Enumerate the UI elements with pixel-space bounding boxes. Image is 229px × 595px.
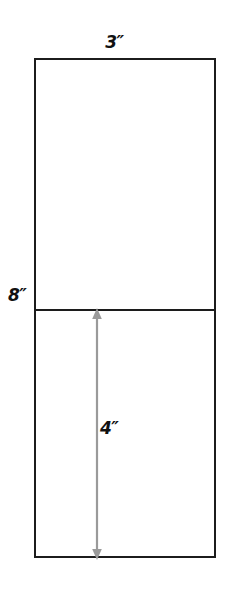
dimension-label-left-height: 8″ <box>8 287 26 304</box>
dimension-label-top-width: 3″ <box>0 34 229 51</box>
dimension-label-inner-height: 4″ <box>100 420 118 437</box>
arrow-head-down <box>92 549 102 560</box>
geometry-diagram: 3″ 8″ 4″ <box>0 0 229 595</box>
arrow-head-up <box>92 308 102 319</box>
rectangle-outline <box>34 58 216 558</box>
horizontal-divider-line <box>34 309 216 311</box>
